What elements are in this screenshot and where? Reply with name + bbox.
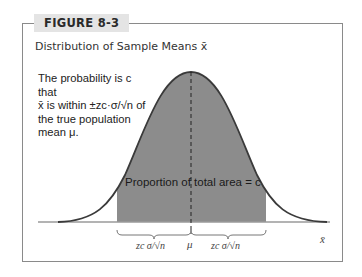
left-bracket-label: zc σ/√n	[136, 240, 165, 251]
area-label: Proportion of total area = c	[125, 176, 261, 188]
right-brace	[191, 230, 266, 239]
left-brace	[117, 230, 191, 239]
right-bracket-label: zc σ/√n	[211, 240, 240, 251]
axis-label: x̄	[320, 233, 325, 245]
mean-label: μ	[187, 238, 193, 250]
normal-curve-diagram	[0, 0, 362, 277]
